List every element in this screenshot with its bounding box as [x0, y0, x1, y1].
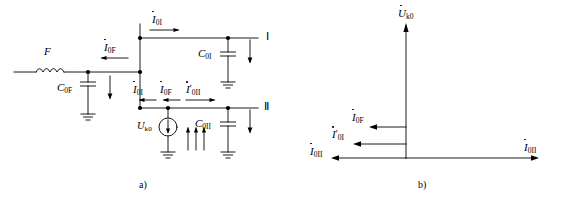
phasor-axis-uk0-head	[403, 23, 408, 32]
cap-0I-label: C0I	[198, 48, 212, 60]
current-i0I-mid-label: I0I	[133, 84, 143, 96]
arrow-i0I-top-head	[174, 28, 180, 32]
junction-dot-source	[166, 106, 170, 110]
junction-dot-bus-top	[138, 36, 142, 40]
panel-a-caption: a)	[139, 180, 147, 190]
junction-dot-cap0f	[86, 70, 90, 74]
arrow-i0F-top-head	[101, 56, 107, 60]
terminal-label-I: Ⅰ	[266, 31, 269, 42]
phasor-i0I-label: I′0I	[332, 129, 344, 142]
phasor-i0F-label: I0F	[352, 112, 364, 124]
phasor-i0II-left-head	[331, 155, 339, 161]
arrow-cap-0f-head	[108, 94, 113, 100]
figure-container: F C0F C0I C0II Uk0 I0F I0I I0I I0F I′0II…	[0, 0, 562, 202]
current-i0I-top-label: I0I	[152, 14, 162, 26]
panel-b-caption: b)	[418, 180, 426, 190]
source-inner-arrow-head	[166, 129, 170, 135]
junction-dot-cap0II	[226, 106, 230, 110]
terminal-label-II: Ⅱ	[264, 101, 269, 112]
phasor-uk0-label: Uk0	[398, 8, 413, 20]
junction-dot-bus-mid	[138, 70, 142, 74]
voltage-source-label: Uk0	[137, 121, 152, 133]
cap-0f-label: C0F	[57, 82, 72, 94]
junction-dot-cap0I	[226, 36, 230, 40]
circuit-schematic	[0, 0, 290, 202]
arrow-cap-0I-head	[248, 58, 253, 64]
current-i0F-top-label: I0F	[104, 42, 116, 54]
arrow-i0II-mid-head	[210, 98, 216, 102]
junction-dot-bus-bottom	[138, 106, 142, 110]
inductor-f-label: F	[44, 46, 51, 57]
arrow-i0F-mid-head	[163, 98, 169, 102]
current-i0II-mid-label: I′0II	[186, 84, 201, 97]
phasor-i0II-left-label: I0II	[310, 146, 322, 158]
arrow-cap-0II-head	[248, 128, 253, 134]
arrow-i0I-mid-head	[139, 98, 145, 102]
phasor-i0I-head	[353, 141, 361, 147]
cap-0II-label: C0II	[195, 118, 211, 130]
phasor-diagram	[290, 0, 562, 202]
up-arrow-1-head	[186, 127, 190, 133]
phasor-i0II-right-head	[531, 155, 539, 161]
phasor-i0II-right-label: I0II	[524, 142, 536, 154]
inductor-coil-f	[36, 69, 64, 73]
phasor-i0F-head	[369, 124, 377, 130]
current-i0F-mid-label: I0F	[160, 84, 172, 96]
